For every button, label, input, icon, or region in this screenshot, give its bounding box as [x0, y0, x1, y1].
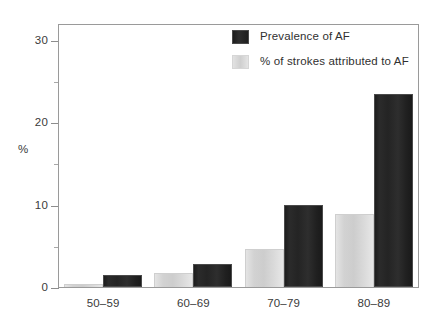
x-tick-label: 80–89: [357, 298, 390, 310]
bar-dark-80-89: [374, 94, 413, 287]
x-tick-label: 70–79: [267, 298, 300, 310]
y-tick-major: [51, 288, 59, 289]
chart-legend: Prevalence of AF % of strokes attributed…: [232, 29, 409, 79]
legend-label-strokes: % of strokes attributed to AF: [260, 56, 409, 68]
y-axis-title: %: [18, 144, 28, 156]
y-tick-label: 20: [8, 117, 48, 129]
y-tick-label: 0: [8, 282, 48, 294]
x-tick-label: 50–59: [87, 298, 120, 310]
y-tick-label: 30: [8, 35, 48, 47]
bar-light-60-69: [154, 273, 193, 287]
legend-label-prevalence: Prevalence of AF: [260, 31, 350, 43]
bar-dark-50-59: [103, 275, 142, 287]
light-swatch-icon: [232, 55, 249, 69]
bar-light-50-59: [64, 284, 103, 287]
legend-item-strokes: % of strokes attributed to AF: [232, 54, 409, 69]
bar-dark-70-79: [284, 205, 323, 287]
legend-item-prevalence: Prevalence of AF: [232, 29, 409, 44]
chart-figure: % 0102030 50–5960–6970–7980–89 Prevalenc…: [0, 0, 442, 325]
x-tick-label: 60–69: [177, 298, 210, 310]
bar-dark-60-69: [193, 264, 232, 287]
dark-swatch-icon: [232, 30, 249, 44]
bar-light-80-89: [335, 214, 374, 287]
y-tick-label: 10: [8, 200, 48, 212]
bar-light-70-79: [245, 249, 284, 287]
